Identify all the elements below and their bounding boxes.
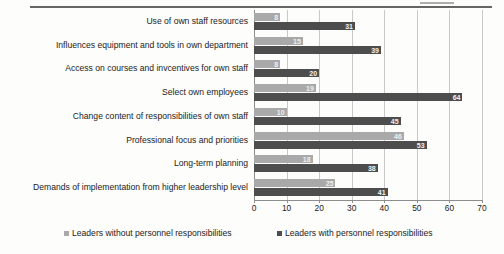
x-tick-label: 0 [252,204,257,213]
bar-series-0[interactable]: 8 [254,60,280,68]
legend-item-leaders-without-personnel-responsibilities[interactable]: Leaders without personnel responsibiliti… [64,228,232,238]
bar-series-0[interactable]: 8 [254,13,280,21]
chart-page: Use of own staff resourcesInfluences equ… [0,0,504,254]
bar-series-1[interactable]: 45 [254,117,401,125]
chart-legend: Leaders without personnel responsibiliti… [0,228,504,244]
bar-value-label: 38 [368,165,376,172]
bar-value-label: 39 [371,46,379,53]
bar-series-1[interactable]: 64 [254,93,462,101]
bar-group: 1838 [254,155,482,179]
legend-swatch-series-0 [64,231,69,236]
bar-value-label: 8 [274,61,278,68]
x-axis: 010203040506070 [254,200,482,216]
bar-group: 4653 [254,132,482,156]
bar-series-1[interactable]: 53 [254,141,427,149]
gridline-70 [482,10,483,200]
bar-series-1[interactable]: 31 [254,22,355,30]
bar-series-0[interactable]: 15 [254,37,303,45]
bar-value-label: 18 [303,156,311,163]
bar-series-1[interactable]: 39 [254,46,381,54]
bar-value-label: 25 [326,180,334,187]
page-top-rule-secondary [420,2,454,4]
category-label: Influences equipment and tools in own de… [56,40,248,50]
x-tick-label: 30 [347,204,356,213]
category-label: Change content of responsibilities of ow… [73,111,248,121]
bar-series-0[interactable]: 18 [254,155,313,163]
bar-value-label: 8 [274,13,278,20]
category-axis: Use of own staff resourcesInfluences equ… [0,10,252,200]
bar-value-label: 31 [345,22,353,29]
category-label: Access on courses and invcentives for ow… [65,63,248,73]
x-tick-label: 60 [445,204,454,213]
category-label: Select own employees [162,87,248,97]
bar-series-1[interactable]: 20 [254,69,319,77]
category-label: Use of own staff resources [146,16,248,26]
category-label: Professional focus and priorities [126,135,248,145]
bar-series-0[interactable]: 19 [254,84,316,92]
bar-series-1[interactable]: 41 [254,188,388,196]
x-tick-label: 20 [314,204,323,213]
bar-group: 1539 [254,37,482,61]
bar-value-label: 45 [391,117,399,124]
bar-group: 831 [254,13,482,37]
category-label: Long-term planning [174,158,248,168]
legend-label-series-1: Leaders with personnel responsibilities [285,228,433,238]
x-tick-label: 50 [412,204,421,213]
page-top-rule [30,6,492,8]
legend-item-leaders-with-personnel-responsibilities[interactable]: Leaders with personnel responsibilities [277,228,433,238]
plot-area: 831153982019641045465318382541 [254,10,482,200]
bar-value-label: 19 [306,85,314,92]
x-tick-label: 10 [282,204,291,213]
bar-group: 820 [254,60,482,84]
bar-value-label: 41 [378,189,386,196]
bar-value-label: 15 [293,37,301,44]
bar-chart: Use of own staff resourcesInfluences equ… [0,10,504,202]
x-tick-label: 70 [477,204,486,213]
bar-series-0[interactable]: 25 [254,179,335,187]
x-axis-line [254,200,482,201]
legend-label-series-0: Leaders without personnel responsibiliti… [72,228,232,238]
x-tick-label: 40 [380,204,389,213]
bar-group: 1045 [254,108,482,132]
bar-value-label: 64 [453,94,461,101]
bar-value-label: 10 [277,108,285,115]
category-label: Demands of implementation from higher le… [33,182,248,192]
bar-series-0[interactable]: 10 [254,108,287,116]
bar-value-label: 53 [417,141,425,148]
bar-value-label: 20 [309,70,317,77]
bar-series-1[interactable]: 38 [254,164,378,172]
legend-swatch-series-1 [277,231,282,236]
bar-value-label: 46 [394,132,402,139]
bar-group: 1964 [254,84,482,108]
bar-series-0[interactable]: 46 [254,132,404,140]
